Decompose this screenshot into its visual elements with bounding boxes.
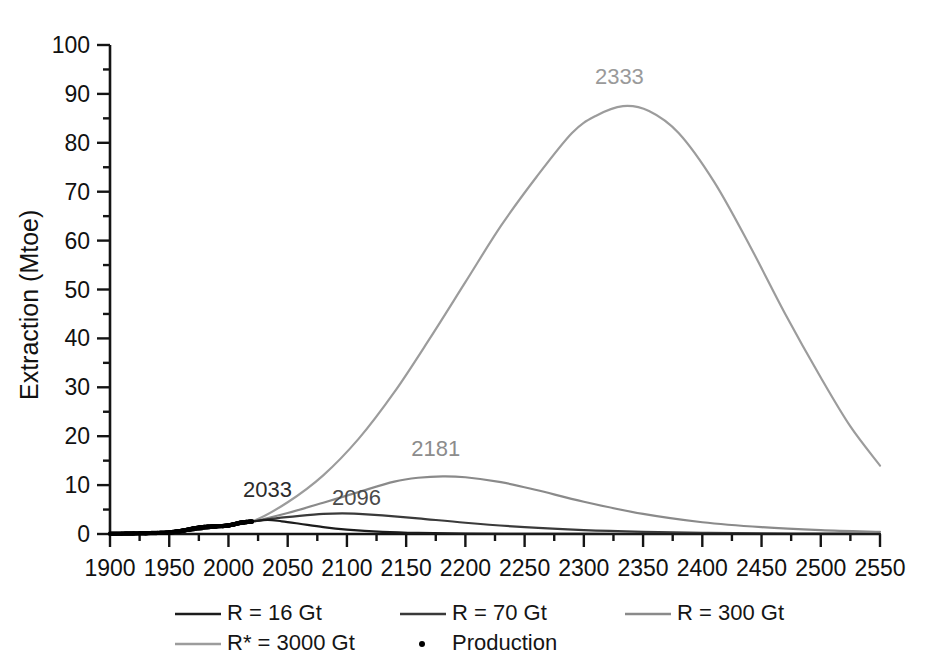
x-tick-label: 2150 — [381, 555, 432, 581]
x-tick-label: 2500 — [795, 555, 846, 581]
extraction-projection-chart: Extraction (Mtoe) 0102030405060708090100… — [0, 0, 932, 668]
peak-year-label: 2181 — [411, 436, 460, 461]
x-tick-label: 1950 — [144, 555, 195, 581]
legend-label: Production — [452, 630, 557, 655]
x-tick-label: 2250 — [499, 555, 550, 581]
peak-year-label: 2033 — [243, 477, 292, 502]
x-tick-label: 2450 — [736, 555, 787, 581]
y-tick-label: 80 — [64, 130, 90, 156]
x-tick-label: 2350 — [617, 555, 668, 581]
legend-dot-marker — [419, 641, 425, 647]
legend-label: R* = 3000 Gt — [227, 630, 355, 655]
x-tick-label: 2050 — [262, 555, 313, 581]
y-tick-label: 10 — [64, 472, 90, 498]
y-tick-label: 30 — [64, 374, 90, 400]
x-tick-label: 2000 — [203, 555, 254, 581]
peak-year-label: 2096 — [332, 485, 381, 510]
x-tick-label: 1900 — [84, 555, 135, 581]
x-tick-label: 2300 — [558, 555, 609, 581]
y-tick-label: 90 — [64, 81, 90, 107]
peak-year-label: 2333 — [595, 64, 644, 89]
y-tick-label: 20 — [64, 423, 90, 449]
y-tick-label: 40 — [64, 325, 90, 351]
x-tick-label: 2200 — [440, 555, 491, 581]
y-tick-label: 50 — [64, 277, 90, 303]
legend-label: R = 300 Gt — [677, 600, 784, 625]
y-axis-title-text: Extraction (Mtoe) — [15, 210, 43, 400]
y-axis-title: Extraction (Mtoe) — [15, 210, 43, 400]
legend-label: R = 70 Gt — [452, 600, 547, 625]
legend-label: R = 16 Gt — [227, 600, 322, 625]
y-tick-label: 60 — [64, 228, 90, 254]
y-tick-label: 0 — [77, 521, 90, 547]
x-tick-label: 2550 — [854, 555, 905, 581]
x-tick-label: 2100 — [321, 555, 372, 581]
x-tick-label: 2400 — [677, 555, 728, 581]
y-tick-label: 100 — [52, 32, 90, 58]
y-tick-label: 70 — [64, 179, 90, 205]
production-data-point — [250, 519, 254, 523]
